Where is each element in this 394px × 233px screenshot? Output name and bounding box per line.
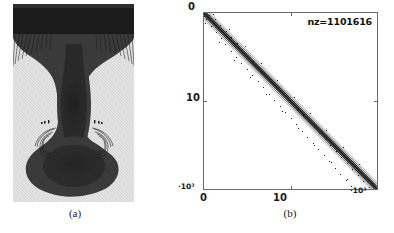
nz-annotation: nz=1101616 (307, 16, 372, 27)
ytick-mid-mark (203, 101, 207, 102)
ytick-label-multiplier: ·10³ (178, 182, 195, 191)
ytick-mid-right-mark (374, 101, 378, 102)
panel-a: (a) (0, 0, 160, 233)
ytick-label-0: 0 (188, 1, 195, 12)
xtick-mid-top-mark (291, 12, 292, 16)
xtick-label-10: 10 (273, 192, 287, 203)
caption-b: (b) (190, 207, 390, 219)
xtick-label-0: 0 (200, 192, 207, 203)
panel-b: nz=1101616 0 10 ·10³ 0 10 ·10³ (b) (190, 0, 394, 233)
sparsity-plot-svg (204, 13, 377, 189)
mesh-svg (13, 4, 134, 202)
caption-a: (a) (0, 207, 150, 219)
finite-element-mesh-image (13, 4, 134, 202)
xtick-mid-mark (291, 186, 292, 190)
xtick-label-multiplier: ·10³ (350, 186, 367, 195)
ytick-label-10: 10 (186, 92, 200, 103)
sparsity-plot: nz=1101616 (203, 12, 378, 190)
figure-container: (a) (0, 0, 394, 233)
